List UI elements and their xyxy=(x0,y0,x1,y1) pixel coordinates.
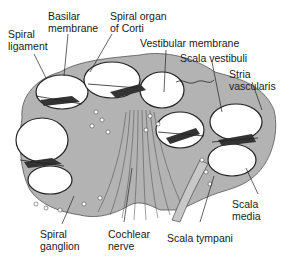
label-scala-vestibuli: Scala vestibuli xyxy=(180,52,247,64)
label-vestibular-membrane: Vestibular membrane xyxy=(140,37,239,49)
label-spiral-ganglion: Spiral ganglion xyxy=(40,228,80,252)
label-spiral-ligament: Spiral ligament xyxy=(8,28,48,52)
label-spiral-organ-corti: Spiral organ of Corti xyxy=(110,10,167,34)
label-stria-vascularis: Stria vascularis xyxy=(229,68,276,92)
label-basilar-membrane: Basilar membrane xyxy=(48,10,98,34)
label-scala-media: Scala media xyxy=(232,198,261,222)
label-cochlear-nerve: Cochlear nerve xyxy=(108,228,150,252)
label-scala-tympani: Scala tympani xyxy=(167,232,233,244)
